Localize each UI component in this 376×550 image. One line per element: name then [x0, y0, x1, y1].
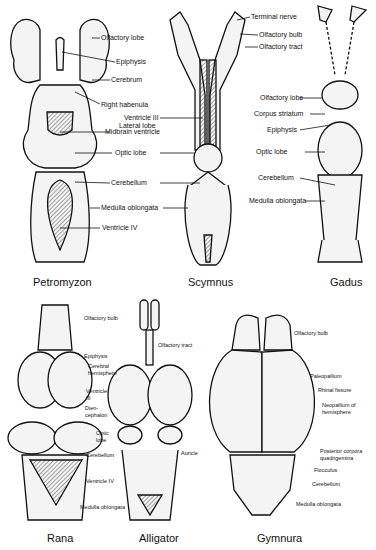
- label-gymnura-medulla-oblongata: Medulla oblongata: [296, 501, 341, 508]
- label-paleopallium: Paleopallium: [310, 373, 342, 380]
- label-gadus-olfactory-lobe: Olfactory lobe: [260, 94, 303, 102]
- label-ventricle-iii: Ventricle III: [124, 114, 159, 122]
- label-rana-optic-lobe: Optic lobe: [96, 430, 112, 443]
- label-rhinal-fissure: Rhinal fissure: [318, 387, 351, 394]
- label-gadus-optic-lobe: Optic lobe: [256, 148, 288, 156]
- label-corpus-striatum: Corpus striatum: [254, 110, 303, 118]
- label-flocculus: Flocculus: [314, 467, 337, 474]
- label-petromyzon-right-habenula: Right habenula: [101, 101, 148, 109]
- petromyzon-brain: [11, 19, 110, 262]
- label-rana-cerebellum: Cerebellum: [86, 452, 114, 459]
- label-gadus-cerebellum: Cerebellum: [258, 174, 294, 182]
- label-diencephalon: Dien-cephalon: [85, 405, 107, 418]
- label-lateral-lobe: Lateral lobe: [119, 122, 156, 130]
- label-gymnura-cerebellum: Cerebellum: [312, 481, 340, 488]
- gymnura-brain: [210, 315, 315, 515]
- label-cerebellum: Cerebellum: [111, 179, 147, 187]
- label-cerebral-hemisphere: Cerebral hemisphere: [88, 363, 118, 376]
- label-auricle: Auricle: [181, 450, 198, 457]
- label-rana-medulla-oblongata: Medulla oblongata: [80, 504, 125, 511]
- label-petromyzon-epiphysis: Epiphysis: [116, 58, 146, 66]
- title-alligator: Alligator: [139, 532, 179, 544]
- title-rana: Rana: [47, 532, 73, 544]
- label-gymnura-olfactory-bulb: Olfactory bulb: [294, 330, 328, 337]
- label-alligator-olfactory-tract: Olfactory tract: [158, 342, 192, 349]
- title-scymnus: Scymnus: [188, 276, 233, 288]
- label-rana-epiphysis: Epiphysis: [84, 353, 108, 360]
- label-rana-ventricle-iv: Ventricle IV: [86, 478, 114, 485]
- label-posterior-corpora-quadrigemina: Posterior corpora quadrigemina: [320, 448, 372, 461]
- label-scymnus-olfactory-bulb: Olfactory bulb: [259, 31, 302, 39]
- label-petromyzon-cerebrum: Cerebrum: [111, 76, 142, 84]
- label-gadus-epiphysis: Epiphysis: [267, 126, 297, 134]
- label-rana-ventricle-iii: Ventricle III: [86, 388, 110, 401]
- label-scymnus-olfactory-tract: Olfactory tract: [259, 43, 303, 51]
- title-gymnura: Gymnura: [257, 532, 302, 544]
- label-medulla-oblongata: Medulla oblongata: [101, 204, 158, 212]
- label-ventricle-iv: Ventricle IV: [102, 224, 137, 232]
- title-petromyzon: Petromyzon: [33, 276, 92, 288]
- title-gadus: Gadus: [330, 276, 362, 288]
- label-rana-olfactory-bulb: Olfactory bulb: [84, 315, 118, 322]
- label-optic-lobe: Optic lobe: [115, 149, 147, 157]
- alligator-brain: [108, 300, 192, 520]
- label-petromyzon-olfactory-lobe: Olfactory lobe: [101, 34, 144, 42]
- label-terminal-nerve: Terminal nerve: [251, 13, 297, 21]
- label-neopallium: Neopallium of hemisphere: [322, 402, 366, 415]
- gadus-brain: [318, 6, 366, 262]
- label-gadus-medulla-oblongata: Medulla oblongata: [249, 197, 306, 205]
- scymnus-brain: [170, 12, 245, 265]
